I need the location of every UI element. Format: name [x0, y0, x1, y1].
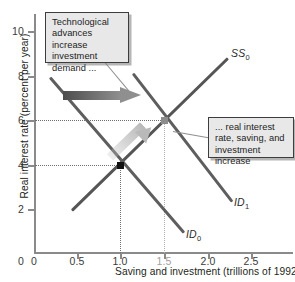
x-tick-label-0: 0 [19, 255, 49, 267]
y-tick-label-2: 2 [4, 203, 24, 215]
id0-label-subscript: 0 [197, 234, 201, 243]
investment-demand-label-id1: ID1 [234, 196, 249, 211]
demand-shift-arrow [63, 87, 141, 104]
id1-label-subscript: 1 [245, 202, 249, 211]
ss0-label-subscript: 0 [245, 53, 249, 62]
callout-2-text: ... real interest rate, saving, and inve… [215, 122, 288, 168]
callout-equilibrium-increase: ... real interest rate, saving, and inve… [208, 117, 294, 158]
guide-line-rate-4 [35, 165, 121, 166]
shift-arrow-head [120, 87, 141, 103]
y-tick-10 [28, 31, 34, 33]
x-axis-title: Saving and investment (trillions of 1992… [115, 266, 295, 277]
x-tick-label-0-5: 0.5 [62, 255, 92, 267]
investment-demand-label-id0: ID0 [186, 228, 201, 243]
callout-technological-advances: Technological advances increase investme… [45, 12, 129, 63]
guide-line-quantity-1-0 [120, 165, 121, 253]
shift-arrow-shaft [63, 91, 121, 100]
equilibrium-point-initial [117, 162, 124, 169]
id1-label-text: ID [234, 196, 245, 208]
callout-1-text: Technological advances increase investme… [52, 17, 123, 74]
y-tick-2 [28, 209, 34, 211]
supply-curve-label-ss0: SS0 [231, 47, 250, 62]
equilibrium-point-new [161, 117, 168, 124]
investment-saving-chart: 10 8 6 4 2 0 0 0.5 1.0 1.5 2.0 2.5 Real … [0, 0, 295, 282]
y-axis-title: Real interest rate (percent per year) [19, 49, 30, 199]
ss0-label-text: SS [231, 47, 245, 59]
id0-label-text: ID [186, 228, 197, 240]
y-axis-line [34, 14, 36, 253]
